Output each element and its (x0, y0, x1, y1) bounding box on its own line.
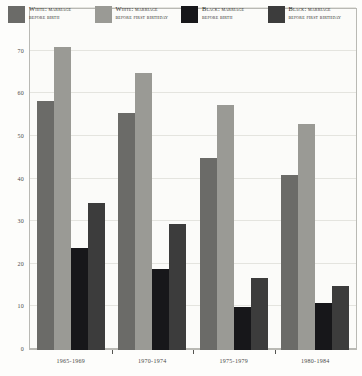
y-axis-tick-label: 0 (21, 346, 24, 352)
legend-swatch-white-before-first-birthday-icon (95, 6, 112, 23)
legend-item-label: White: marriage before birth (29, 5, 83, 22)
legend-swatch-black-before-birth-icon (181, 6, 198, 23)
bar (200, 158, 217, 350)
legend-item[interactable]: Black: marriage before first birthday (268, 5, 355, 23)
bar-group (193, 9, 275, 350)
bar (169, 224, 186, 350)
x-axis-tick-mark (112, 350, 113, 354)
bar (37, 101, 54, 350)
bar-chart: 01020304050607080 White: marriage before… (0, 0, 362, 376)
bar (315, 303, 332, 350)
y-axis-tick-label: 50 (18, 133, 24, 139)
bar (54, 47, 71, 350)
bar-group (112, 9, 194, 350)
bar-group (30, 9, 112, 350)
legend-item[interactable]: White: marriage before first birthday (95, 5, 182, 23)
y-axis-tick-label: 40 (18, 176, 24, 182)
bar-group (275, 9, 357, 350)
x-axis-tick-label: 1975-1979 (219, 358, 248, 364)
bar (251, 278, 268, 350)
y-axis-tick-label: 70 (18, 48, 24, 54)
x-axis-tick-mark (193, 350, 194, 354)
bar (332, 286, 349, 350)
chart-legend: White: marriage before birthWhite: marri… (8, 5, 354, 39)
legend-item[interactable]: Black: marriage before birth (181, 5, 268, 23)
legend-item-label: Black: marriage before first birthday (289, 5, 343, 22)
bar (281, 175, 298, 350)
legend-item[interactable]: White: marriage before birth (8, 5, 95, 23)
bar (88, 203, 105, 350)
bar (71, 248, 88, 350)
bar (217, 105, 234, 350)
x-axis-tick-label: 1965-1969 (56, 358, 85, 364)
x-axis-tick-mark (275, 350, 276, 354)
y-axis-tick-label: 20 (18, 261, 24, 267)
legend-swatch-white-before-birth-icon (8, 6, 25, 23)
x-axis: 1965-19691970-19741975-19791980-1984 (30, 350, 356, 376)
x-axis-tick-label: 1970-1974 (138, 358, 167, 364)
legend-item-label: White: marriage before first birthday (116, 5, 170, 22)
bar (118, 113, 135, 350)
bar (152, 269, 169, 350)
y-axis-tick-label: 10 (18, 303, 24, 309)
legend-item-label: Black: marriage before birth (202, 5, 256, 22)
x-axis-tick-label: 1980-1984 (301, 358, 330, 364)
bar (234, 307, 251, 350)
y-axis-tick-label: 30 (18, 218, 24, 224)
legend-swatch-black-before-first-birthday-icon (268, 6, 285, 23)
bar (298, 124, 315, 350)
bars-layer (30, 9, 356, 350)
y-axis: 01020304050607080 (0, 8, 29, 350)
y-axis-tick-label: 60 (18, 90, 24, 96)
bar (135, 73, 152, 350)
